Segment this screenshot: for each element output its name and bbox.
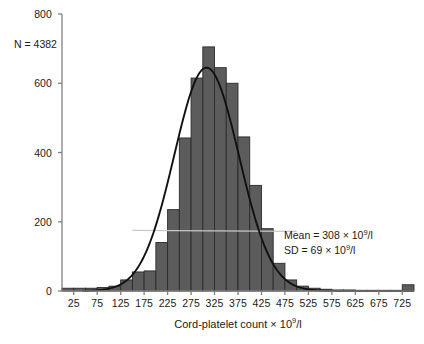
- sample-size-label: N = 4382: [14, 38, 57, 50]
- mean-units: /l: [368, 229, 373, 241]
- x-axis-tick-label: 425: [253, 297, 271, 309]
- x-axis-tick-label: 375: [229, 297, 247, 309]
- y-axis-tick-label: 800: [8, 8, 52, 20]
- mean-annotation: Mean = 308 × 109/l: [284, 228, 373, 243]
- mean-text: Mean = 308 × 10: [284, 229, 363, 241]
- x-axis-tick-label: 525: [299, 297, 317, 309]
- x-axis-tick-label: 175: [135, 297, 153, 309]
- x-axis-tick-label: 675: [370, 297, 388, 309]
- x-axis-tick-label: 125: [112, 297, 130, 309]
- histogram-bar: [203, 47, 215, 291]
- histogram-bar: [156, 243, 168, 291]
- x-axis-tick-label: 725: [393, 297, 411, 309]
- y-axis-tick-label: 0: [8, 285, 52, 297]
- x-axis-tick-label: 325: [206, 297, 224, 309]
- chart-canvas: [0, 0, 424, 344]
- x-axis-title-units: /l: [296, 318, 302, 330]
- sd-text: SD = 69 × 10: [284, 244, 346, 256]
- x-axis-tick-label: 275: [182, 297, 200, 309]
- histogram-bar: [132, 272, 144, 291]
- histogram-bar: [250, 185, 262, 291]
- histogram-figure: 0200400600800 25751251752252753253754254…: [0, 0, 424, 344]
- x-axis-tick-label: 575: [323, 297, 341, 309]
- histogram-bar: [168, 210, 180, 291]
- x-axis-title-text: Cord-platelet count × 10: [174, 318, 292, 330]
- x-axis-tick-label: 75: [91, 297, 103, 309]
- histogram-bar: [179, 138, 191, 291]
- x-axis-tick-label: 475: [276, 297, 294, 309]
- histogram-bar: [191, 78, 203, 291]
- y-axis-tick-label: 200: [8, 216, 52, 228]
- statistics-annotation: Mean = 308 × 109/l SD = 69 × 109/l: [284, 228, 373, 258]
- sd-annotation: SD = 69 × 109/l: [284, 243, 373, 258]
- x-axis-tick-label: 225: [159, 297, 177, 309]
- y-axis-tick-label: 400: [8, 147, 52, 159]
- y-axis-tick-label: 600: [8, 77, 52, 89]
- histogram-bar: [144, 271, 156, 291]
- x-axis-tick-label: 625: [346, 297, 364, 309]
- sd-units: /l: [350, 244, 355, 256]
- x-axis-tick-label: 25: [68, 297, 80, 309]
- x-axis-title: Cord-platelet count × 109/l: [174, 318, 301, 330]
